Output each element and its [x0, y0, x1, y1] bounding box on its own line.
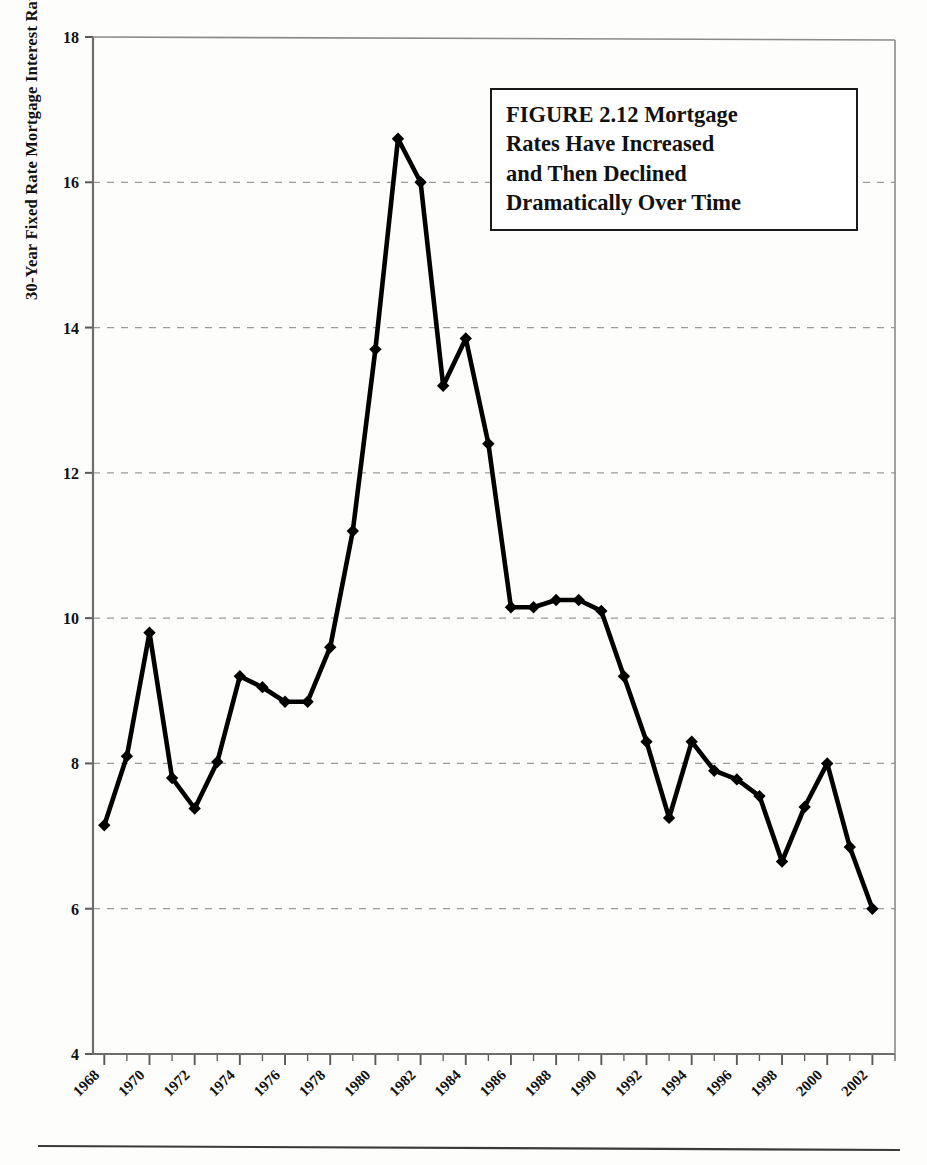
y-tick-label: 8 [71, 755, 79, 772]
data-point-marker [369, 343, 381, 355]
x-tick-label: 1972 [160, 1067, 193, 1100]
x-tick-label: 1994 [657, 1066, 690, 1099]
data-point-marker [505, 601, 517, 613]
figure-title-line-2: Rates Have Increased [506, 129, 844, 158]
data-point-marker [482, 438, 494, 450]
figure-title-box: FIGURE 2.12 Mortgage Rates Have Increase… [490, 88, 858, 231]
x-tick-group: 1968197019721974197619781980198219841986… [70, 1066, 871, 1099]
data-point-marker [301, 695, 313, 707]
y-tick-label: 10 [63, 610, 79, 627]
y-tick-label: 4 [71, 1046, 79, 1063]
x-tick-label: 1968 [70, 1067, 103, 1100]
data-point-marker [618, 670, 630, 682]
x-tick-label: 1976 [251, 1066, 284, 1099]
data-point-marker [550, 594, 562, 606]
x-tick-label: 2000 [793, 1067, 826, 1100]
figure-title-line-4: Dramatically Over Time [506, 188, 844, 217]
x-tick-label: 1982 [386, 1067, 419, 1100]
data-point-marker [776, 855, 788, 867]
page-rule [38, 1146, 900, 1150]
figure-title-line-3: and Then Declined [506, 159, 844, 188]
data-point-marker [347, 525, 359, 537]
x-tick-label: 1970 [115, 1067, 148, 1100]
x-tick-label: 1986 [477, 1066, 510, 1099]
y-tick-group: 4681012141618 [63, 29, 93, 1063]
figure-title-line-1: FIGURE 2.12 Mortgage [506, 100, 844, 129]
x-tick-label: 1980 [341, 1067, 374, 1100]
y-tick-label: 12 [63, 465, 79, 482]
figure-container: 30-Year Fixed Rate Mortgage Interest Rat… [0, 0, 927, 1165]
x-tick-label: 1990 [567, 1067, 600, 1100]
x-tick-label: 2002 [838, 1067, 871, 1100]
x-tick-label: 1978 [296, 1067, 329, 1100]
x-tick-label: 1984 [431, 1066, 464, 1099]
data-point-marker [121, 750, 133, 762]
y-axis-label: 30-Year Fixed Rate Mortgage Interest Rat… [22, 0, 42, 300]
y-tick-label: 6 [71, 901, 79, 918]
y-tick-label: 16 [63, 174, 79, 191]
data-point-group [98, 133, 879, 915]
gridline-group [93, 182, 895, 908]
data-point-marker [98, 819, 110, 831]
y-axis-label-container: 30-Year Fixed Rate Mortgage Interest Rat… [14, 0, 54, 1060]
x-minor-tick-group [104, 1054, 895, 1065]
x-tick-label: 1996 [702, 1066, 735, 1099]
x-tick-label: 1974 [205, 1066, 238, 1099]
x-tick-label: 1992 [612, 1067, 645, 1100]
y-tick-label: 18 [63, 29, 79, 46]
data-point-marker [866, 903, 878, 915]
data-point-marker [527, 601, 539, 613]
x-tick-label: 1988 [522, 1067, 555, 1100]
data-point-marker [640, 735, 652, 747]
data-point-marker [844, 841, 856, 853]
data-point-marker [663, 812, 675, 824]
y-tick-label: 14 [63, 320, 79, 337]
x-tick-label: 1998 [748, 1067, 781, 1100]
data-point-marker [143, 626, 155, 638]
data-point-marker [324, 641, 336, 653]
